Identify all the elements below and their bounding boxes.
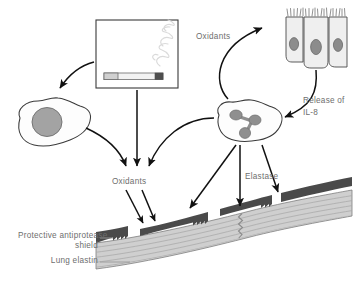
figure-canvas: Oxidants Oxidants Release of IL-8 Elasta… — [0, 0, 357, 290]
neutrophil-cell — [218, 100, 282, 141]
label-lung-elastin: Lung elastin — [18, 256, 98, 266]
cilia-icon — [287, 8, 345, 16]
epithelial-nucleus — [333, 39, 342, 52]
arrow-neutrophil-to-oxidants — [149, 118, 214, 166]
label-shield-line2: shield — [18, 241, 98, 251]
lung-elastin-band — [90, 190, 356, 269]
label-release-of: Release of — [303, 96, 345, 106]
arrow-box-to-macrophage — [60, 62, 94, 88]
label-oxidants-lower: Oxidants — [112, 177, 146, 187]
label-shield-line1: Protective antiprotease — [18, 231, 98, 241]
epithelial-nucleus — [289, 38, 298, 51]
label-elastase: Elastase — [245, 172, 278, 182]
arrow-neutrophil-to-shield-right — [262, 145, 278, 192]
arrow-oxidants-to-shield-left — [126, 190, 143, 223]
label-il8: IL-8 — [303, 108, 318, 118]
epithelial-nucleus — [311, 39, 322, 54]
cigarette-icon — [104, 73, 163, 80]
macrophage-cell — [19, 98, 91, 146]
arrow-neutrophil-to-shield-left — [190, 145, 236, 208]
arrow-oxidants-to-shield-right — [142, 190, 155, 221]
ciliated-epithelial-cells — [286, 8, 347, 68]
arrow-macrophage-to-oxidants — [86, 128, 126, 166]
cigarette-smoke-box — [96, 20, 178, 88]
macrophage-nucleus — [32, 108, 62, 137]
label-oxidants-upper: Oxidants — [196, 32, 230, 42]
